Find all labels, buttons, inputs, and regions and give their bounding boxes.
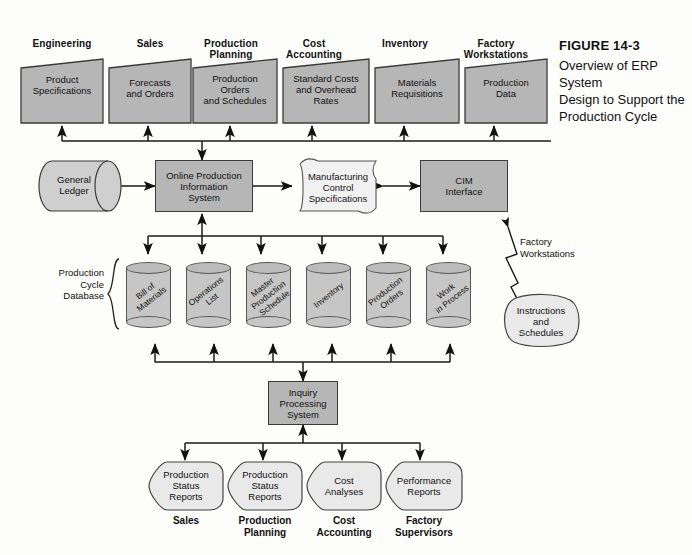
document-standard-costs-and-overhead-rates: Standard Costs and Overhead Rates [282,58,370,124]
inquiry-processing-system: Inquiry Processing System [268,381,338,425]
database-cylinder-inventory: Inventory [306,262,351,328]
figure-caption-line: Overview of ERP System [559,57,691,91]
document-materials-requisitions: Materials Requisitions [374,58,460,124]
cim-interface: CIM Interface [420,160,508,212]
cylinder-label: Production Orders [366,275,410,316]
document-forecasts-and-orders: Forecasts and Orders [108,58,192,124]
recipient-label-sales: Sales [147,515,225,527]
recipient-label-cost-accounting: Cost Accounting [300,515,388,538]
report-label: Performance Reports [384,475,464,497]
general-ledger-label: General Ledger [40,174,108,196]
document-product-specifications: Product Specifications [20,58,104,124]
database-cylinder-work-in-process: Work in Process [426,262,471,328]
output-report-production-status-sales: Production Status Reports [147,460,225,512]
column-header-engineering: Engineering [12,38,112,49]
instructions-label: Instructions and Schedules [498,305,584,338]
cim-interface-label: CIM Interface [446,175,483,197]
cylinder-label: Bill of Materials [129,277,168,314]
manufacturing-spec-label: Manufacturing Control Specifications [298,171,378,204]
general-ledger-database: General Ledger [38,160,122,212]
document-label: Forecasts and Orders [108,77,192,99]
figure-number: FIGURE 14-3 [559,38,640,53]
database-cylinder-master-production-schedule: Master Production Schedule [246,262,291,328]
cylinder-label: Master Production Schedule [243,271,293,320]
erp-production-cycle-diagram: Engineering Sales Production Planning Co… [0,0,692,555]
output-report-production-status-planning: Production Status Reports [226,460,304,512]
document-label: Materials Requisitions [374,77,460,99]
database-cylinder-production-orders: Production Orders [366,262,411,328]
report-label: Production Status Reports [147,469,225,502]
online-system-label: Online Production Information System [166,170,242,203]
report-label: Cost Analyses [305,475,383,497]
factory-workstations-link-label: Factory Workstations [520,236,612,259]
output-report-performance: Performance Reports [384,460,464,512]
manufacturing-control-specifications: Manufacturing Control Specifications [292,158,384,214]
document-label: Product Specifications [20,74,104,96]
document-label: Standard Costs and Overhead Rates [282,73,370,106]
inquiry-label: Inquiry Processing System [280,387,327,420]
database-cylinder-bill-of-materials: Bill of Materials [126,262,171,328]
database-brace-icon [106,258,124,330]
cylinder-label: Inventory [312,280,346,309]
document-label: Production Orders and Schedules [192,73,278,106]
online-production-information-system: Online Production Information System [155,160,253,212]
cylinder-label: Operations List [186,274,231,315]
recipient-label-production-planning: Production Planning [222,515,308,538]
column-header-cost-accounting: Cost Accounting [264,38,364,60]
production-cycle-database-label: Production Cycle Database [36,267,104,302]
recipient-label-factory-supervisors: Factory Supervisors [378,515,470,538]
figure-caption-line: Production Cycle [559,108,691,125]
column-header-inventory: Inventory [355,38,455,49]
report-label: Production Status Reports [226,469,304,502]
document-label: Production Data [464,77,548,99]
figure-caption-line: Design to Support the [559,91,691,108]
document-production-data: Production Data [464,58,548,124]
database-cylinder-operations-list: Operations List [186,262,231,328]
output-report-cost-analyses: Cost Analyses [305,460,383,512]
column-header-factory-workstations: Factory Workstations [446,38,546,60]
document-production-orders-and-schedules: Production Orders and Schedules [192,58,278,124]
figure-caption: Overview of ERP System Design to Support… [559,57,691,125]
instructions-and-schedules: Instructions and Schedules [498,294,584,348]
cylinder-label: Work in Process [427,275,471,315]
